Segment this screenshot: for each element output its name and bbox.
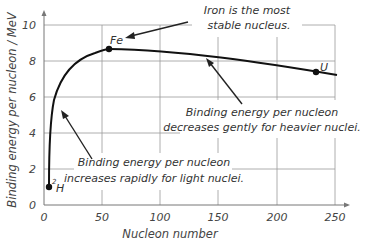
svg-text:Iron is the most: Iron is the most [204, 4, 291, 17]
annotation-heavy: Binding energy per nucleon decreases gen… [163, 58, 360, 134]
label-u: U [320, 61, 328, 74]
svg-text:stable nucleus.: stable nucleus. [207, 19, 290, 32]
svg-text:4: 4 [29, 127, 36, 140]
svg-text:0: 0 [29, 199, 36, 212]
y-axis-title: Binding energy per nucleon / MeV [5, 11, 19, 207]
svg-text:10: 10 [22, 19, 36, 32]
svg-text:Binding energy per nucleon: Binding energy per nucleon [78, 156, 230, 169]
svg-text:250: 250 [325, 211, 346, 224]
y-tick-labels: 0 2 4 6 8 10 [22, 19, 36, 212]
svg-text:Binding energy per nucleon: Binding energy per nucleon [186, 106, 338, 119]
x-axis-title: Nucleon number [122, 227, 219, 241]
svg-text:0: 0 [41, 211, 48, 224]
svg-text:100: 100 [150, 211, 171, 224]
label-fe: Fe [110, 34, 123, 47]
svg-text:6: 6 [29, 91, 36, 104]
svg-text:50: 50 [95, 211, 109, 224]
binding-energy-chart: 0 2 4 6 8 10 0 50 100 150 200 250 Nucleo… [0, 0, 387, 247]
point-u [313, 69, 319, 75]
svg-text:150: 150 [208, 211, 229, 224]
x-tick-labels: 0 50 100 150 200 250 [41, 211, 346, 224]
svg-text:200: 200 [267, 211, 288, 224]
svg-text:8: 8 [29, 55, 36, 68]
svg-text:increases rapidly for light nu: increases rapidly for light nuclei. [64, 172, 244, 185]
svg-text:2: 2 [29, 163, 36, 176]
svg-text:decreases gently for heavier n: decreases gently for heavier nuclei. [163, 121, 360, 134]
